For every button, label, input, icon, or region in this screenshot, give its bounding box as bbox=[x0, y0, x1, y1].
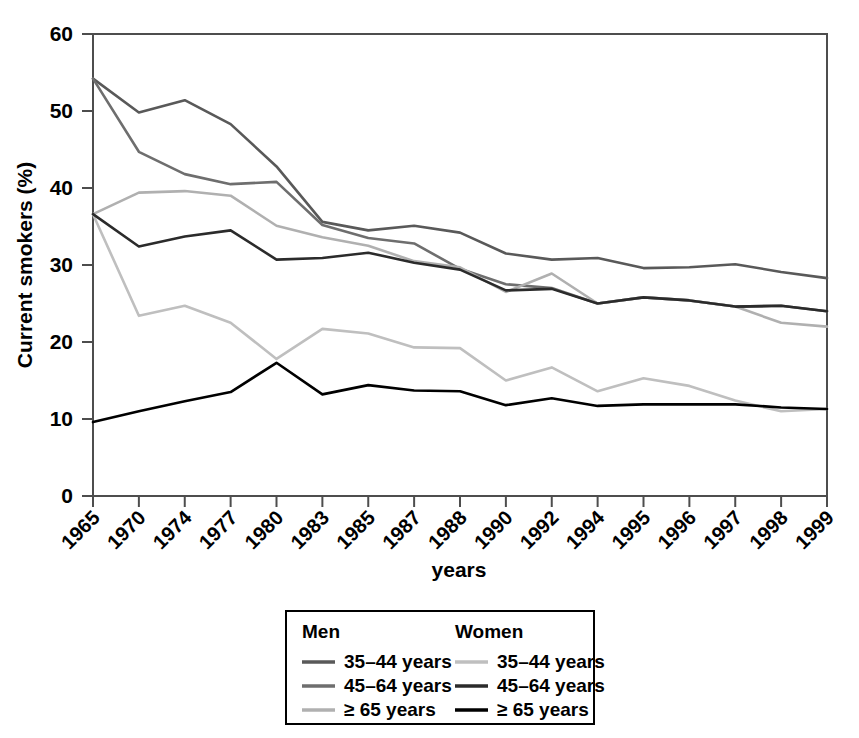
x-axis-title: years bbox=[432, 558, 487, 581]
smoking-prevalence-line-chart: 0102030405060 19651970197419771980198319… bbox=[0, 0, 859, 738]
legend-label-men-3: ≥ 65 years bbox=[344, 699, 436, 720]
chart-legend: Men35–44 years45–64 years≥ 65 yearsWomen… bbox=[286, 611, 605, 724]
y-tick-label: 30 bbox=[50, 253, 73, 276]
legend-label-women-1: 35–44 years bbox=[497, 651, 605, 672]
legend-label-women-2: 45–64 years bbox=[497, 675, 605, 696]
legend-label-men-2: 45–64 years bbox=[344, 675, 452, 696]
legend-label-women-3: ≥ 65 years bbox=[497, 699, 589, 720]
y-tick-label: 20 bbox=[50, 330, 73, 353]
legend-heading-women: Women bbox=[455, 621, 523, 642]
legend-heading-men: Men bbox=[302, 621, 340, 642]
y-axis-title: Current smokers (%) bbox=[13, 162, 36, 369]
y-tick-label: 0 bbox=[61, 484, 73, 507]
y-tick-label: 50 bbox=[50, 99, 73, 122]
legend-label-men-1: 35–44 years bbox=[344, 651, 452, 672]
chart-figure: 0102030405060 19651970197419771980198319… bbox=[0, 0, 859, 738]
y-tick-label: 60 bbox=[50, 22, 73, 45]
y-tick-label: 10 bbox=[50, 407, 73, 430]
y-tick-label: 40 bbox=[50, 176, 73, 199]
